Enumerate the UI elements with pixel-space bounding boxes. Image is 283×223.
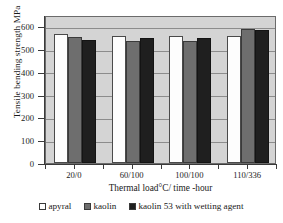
x-axis-tick-label: 20/0 [44,170,104,180]
legend-swatch-icon [39,203,46,210]
x-axis-group-tick [161,164,162,169]
chart-legend: apyralkaolinkaolin 53 with wetting agent [0,201,283,211]
x-axis-tick-label: 110/336 [217,170,277,180]
bar [241,29,255,163]
bar [169,36,183,163]
x-axis-tick-label: 60/100 [102,170,162,180]
bar [255,30,269,163]
bar [82,40,96,163]
bar [68,37,82,163]
y-axis-tick-label: 500 [0,45,34,55]
x-axis-group-tick [218,164,219,169]
legend-label: kaolin 53 with wetting agent [138,201,243,211]
x-axis-group-tick [276,164,277,169]
bar-group [46,17,104,163]
x-axis-group-tick [45,164,46,169]
bar [54,34,68,163]
bar-chart-figure: Tensile bending strength MPa 01002003004… [0,0,283,223]
legend-label: apyral [48,201,71,211]
legend-swatch-icon [129,203,136,210]
legend-item: kaolin [84,201,116,211]
y-axis-tick-label: 100 [0,136,34,146]
x-axis-tick [247,164,248,169]
x-axis-tick [189,164,190,169]
bar [112,36,126,163]
bar [126,41,140,163]
legend-label: kaolin [93,201,116,211]
bar-group [162,17,220,163]
bar-group [104,17,162,163]
bar [197,38,211,163]
x-axis-tick-label: 100/100 [159,170,219,180]
y-axis-tick-label: 200 [0,113,34,123]
legend-swatch-icon [84,203,91,210]
bar [227,36,241,163]
plot-inner [46,17,275,163]
x-axis-title: Thermal load°C/ time -hour [45,183,276,193]
x-axis-group-tick [103,164,104,169]
bar-group [219,17,277,163]
y-axis-tick-label: 400 [0,68,34,78]
bar [140,38,154,163]
y-axis-tick-label: 0 [0,159,34,169]
y-axis-tick-label: 300 [0,91,34,101]
plot-area [45,16,276,164]
y-axis-tick-label: 600 [0,22,34,32]
legend-item: apyral [39,201,71,211]
x-axis-tick [74,164,75,169]
bar [183,41,197,163]
legend-item: kaolin 53 with wetting agent [129,201,243,211]
x-axis-tick [132,164,133,169]
